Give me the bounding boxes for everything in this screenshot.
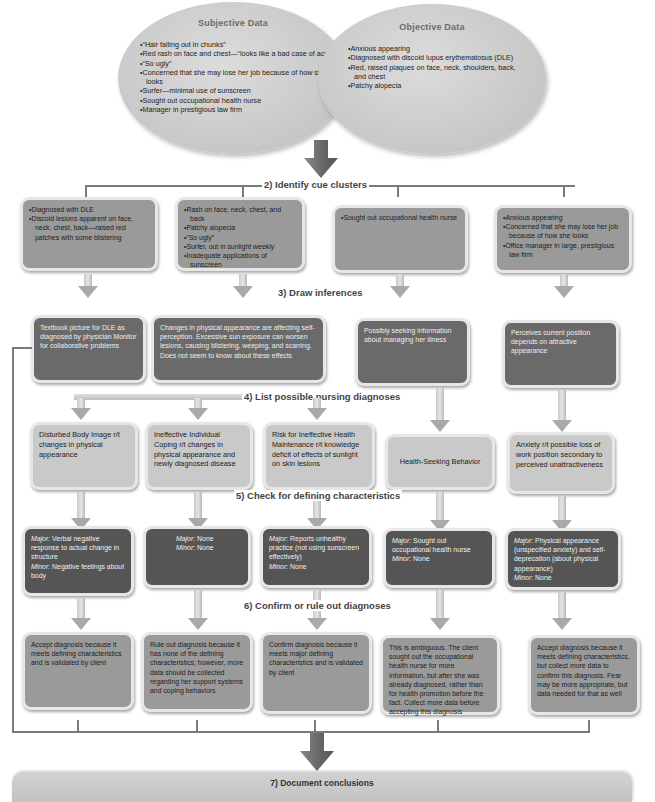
minor-label: Minor:: [392, 555, 411, 562]
subjective-data-title: Subjective Data: [118, 18, 348, 28]
down-arrow-icon: [555, 592, 569, 630]
major-label: Major:: [392, 537, 411, 544]
bracket-drop: [397, 185, 399, 197]
down-arrow-icon: [191, 492, 205, 530]
cue-cluster-box: Anxious appearing Concerned that she may…: [494, 205, 632, 273]
cue-cluster-box: Rash on face, neck, chest, and back Patc…: [175, 197, 305, 271]
down-arrow-icon: [74, 492, 88, 530]
inference-box: Perceives current position depends on at…: [502, 320, 619, 388]
minor-label: Minor:: [514, 574, 533, 581]
minor-text: None: [197, 544, 213, 551]
list-item: Concerned that she may lose her job beca…: [140, 68, 335, 87]
list-item: Red rash on face and chest—“looks like a…: [140, 49, 335, 58]
major-text: None: [197, 535, 213, 542]
inference-box: Possibly seeking information about manag…: [355, 318, 470, 386]
conclusion-box: Accept diagnosis because it meets defini…: [22, 632, 134, 710]
down-arrow-icon: [304, 140, 338, 178]
down-arrow-icon: [191, 398, 205, 420]
list-item: Inadequate applications of sunscreen: [184, 251, 296, 269]
diagnosis-text: Ineffective Individual Coping r/t change…: [154, 430, 236, 468]
conclusion-text: Accept diagnosis because it meets defini…: [537, 644, 630, 697]
collaborative-problem-connector: [12, 347, 14, 732]
diagnosis-text: Health-Seeking Behavior: [400, 457, 481, 467]
step-3-label: 3) Draw inferences: [276, 287, 364, 298]
inference-text: Changes in physical appearance are affec…: [160, 324, 315, 359]
list-item: Surfer, out in sunlight weekly: [184, 242, 296, 251]
inference-text: Perceives current position depends on at…: [511, 329, 590, 354]
subjective-data-list: “Hair falling out in chunks” Red rash on…: [140, 40, 335, 114]
inference-box: Changes in physical appearance are affec…: [151, 315, 326, 383]
down-arrow-icon: [74, 598, 88, 630]
list-item: Anxious appearing: [348, 44, 528, 53]
minor-label: Minor:: [31, 563, 50, 570]
objective-data-title: Objective Data: [318, 22, 546, 32]
diagnosis-text: Disturbed Body Image r/t changes in phys…: [39, 430, 120, 459]
nursing-diagnosis-box: Disturbed Body Image r/t changes in phys…: [30, 422, 138, 490]
down-arrow-icon: [555, 390, 569, 432]
minor-label: Minor:: [176, 544, 195, 551]
diagnosis-text: Anxiety r/t possible loss of work positi…: [516, 440, 603, 469]
list-item: Surfer—minimal use of sunscreen: [140, 86, 335, 95]
bracket-drop: [314, 720, 316, 732]
conclusion-box: Accept diagnosis because it meets defini…: [528, 635, 640, 715]
bracket-drop: [242, 185, 244, 197]
list-item: Patchy alopecia: [348, 81, 528, 90]
inference-box: Textbook picture for DLE as diagnosed by…: [31, 315, 146, 383]
conclusion-box: This is ambiguous. The client sought out…: [380, 635, 500, 715]
objective-data-list: Anxious appearing Diagnosed with discoid…: [348, 44, 528, 90]
defining-characteristics-box: Major: Sought out occupational health nu…: [383, 528, 495, 588]
nursing-diagnosis-box: Health-Seeking Behavior: [385, 434, 495, 490]
inference-text: Possibly seeking information about manag…: [364, 327, 451, 343]
defining-characteristics-box: Major: Verbal negative response to actua…: [22, 526, 134, 596]
cue-cluster-box: Sought out occupational health nurse: [332, 205, 468, 273]
nursing-diagnosis-box: Anxiety r/t possible loss of work positi…: [507, 432, 615, 494]
down-arrow-icon: [433, 492, 447, 532]
step-2-label: 2) Identify cue clusters: [262, 179, 369, 190]
defining-characteristics-box: Major: None Minor: None: [143, 526, 251, 588]
defining-characteristics-box: Major: Physical appearance (unspecified …: [505, 528, 621, 590]
minor-text: None: [535, 574, 551, 581]
list-item: Discoid lesions apparent on face, neck, …: [29, 214, 149, 242]
down-arrow-icon: [191, 590, 205, 630]
list-item: Anxious appearing: [503, 213, 623, 222]
objective-data-ellipse: Objective Data Anxious appearing Diagnos…: [318, 4, 546, 154]
step-6-label: 6) Confirm or rule out diagnoses: [242, 600, 393, 611]
down-arrow-icon: [557, 274, 571, 298]
major-label: Major:: [269, 535, 288, 542]
conclusion-text: This is ambiguous. The client sought out…: [389, 644, 483, 715]
bracket-drop: [196, 720, 198, 732]
step-5-label: 5) Check for defining characteristics: [234, 490, 402, 501]
list-item: Sought out occupational health nurse: [341, 213, 459, 222]
minor-text: None: [290, 563, 306, 570]
down-arrow-icon: [555, 496, 569, 532]
bracket-drop: [588, 720, 590, 732]
down-arrow-icon: [310, 398, 324, 420]
down-arrow-icon: [236, 274, 250, 298]
subjective-data-ellipse: Subjective Data “Hair falling out in chu…: [118, 2, 348, 154]
list-item: Red, raised plaques on face, neck, shoul…: [348, 63, 528, 82]
list-item: “Hair falling out in chunks”: [140, 40, 335, 49]
bracket-drop: [563, 185, 565, 197]
down-arrow-icon: [393, 274, 407, 298]
major-label: Major:: [176, 535, 195, 542]
step-7-label: 7) Document conclusions: [12, 778, 632, 788]
document-conclusions-bar: 7) Document conclusions: [12, 772, 632, 802]
conclusion-text: Rule out diagnosis because it has none o…: [150, 641, 243, 694]
down-arrow-icon: [300, 733, 334, 771]
defining-characteristics-box: Major: Reports unhealthy practice (not u…: [260, 526, 372, 588]
minor-label: Minor:: [269, 563, 288, 570]
nursing-diagnosis-box: Ineffective Individual Coping r/t change…: [145, 422, 253, 490]
down-arrow-icon: [74, 398, 88, 420]
nursing-diagnosis-box: Risk for Ineffective Health Maintenance …: [263, 422, 375, 490]
bracket-drop: [77, 720, 79, 732]
collaborative-problem-connector: [12, 347, 32, 349]
conclusion-text: Confirm diagnosis because it meets major…: [269, 641, 363, 676]
conclusion-box: Rule out diagnosis because it has none o…: [141, 632, 253, 712]
diagnosis-text: Risk for Ineffective Health Maintenance …: [272, 430, 359, 468]
conclusion-box: Confirm diagnosis because it meets major…: [260, 632, 372, 714]
list-item: Diagnosed with DLE: [29, 205, 149, 214]
down-arrow-icon: [433, 388, 447, 432]
bracket-drop: [85, 185, 87, 197]
list-item: Diagnosed with discoid lupus erythematos…: [348, 53, 528, 62]
list-item: Rash on face, neck, chest, and back: [184, 205, 296, 223]
